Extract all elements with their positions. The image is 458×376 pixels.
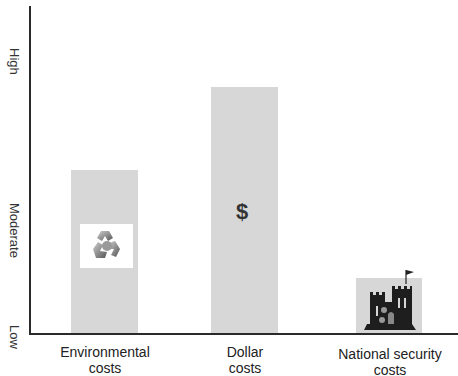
y-tick-low: Low (7, 325, 22, 349)
recycle-icon (80, 224, 133, 268)
x-label-line1: Dollar (200, 344, 290, 360)
y-tick-high: High (7, 48, 22, 75)
castle-icon (362, 268, 418, 334)
x-label-dollar: Dollar costs (200, 344, 290, 376)
x-label-line2: costs (326, 362, 454, 376)
x-label-line2: costs (44, 360, 166, 376)
x-label-line2: costs (200, 360, 290, 376)
x-label-national-security: National security costs (326, 346, 454, 376)
x-label-line1: Environmental (44, 344, 166, 360)
dollar-icon: $ (236, 199, 248, 225)
x-label-line1: National security (326, 346, 454, 362)
x-axis (29, 333, 458, 335)
y-tick-moderate: Moderate (7, 203, 22, 258)
x-label-environmental: Environmental costs (44, 344, 166, 376)
y-axis (29, 6, 31, 335)
